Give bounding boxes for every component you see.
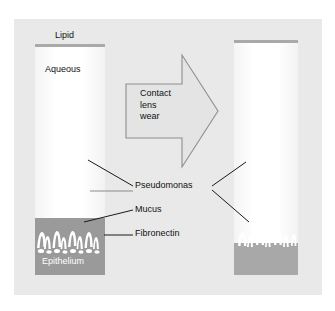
label-fibronectin: Fibronectin [135,228,180,239]
figure-canvas: Lipid Aqueous Pseudomonas Mucus Fibronec… [0,0,335,311]
label-pseudomonas: Pseudomonas [135,180,193,191]
label-lipid: Lipid [55,30,74,41]
arrow-label: Contact lens wear [140,88,171,123]
label-epithelium: Epithelium [42,256,84,267]
label-aqueous: Aqueous [45,64,81,75]
label-mucus: Mucus [135,204,162,215]
bacteria-colony-right [234,222,298,248]
